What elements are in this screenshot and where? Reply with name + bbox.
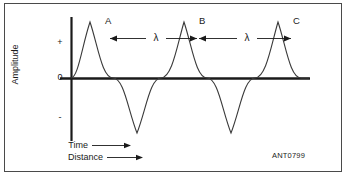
x-axis-caption-time: Time <box>28 141 88 150</box>
x-axis-caption-distance: Distance <box>28 153 103 162</box>
wavelength-arrowhead-left-1 <box>110 36 117 42</box>
y-tick-negative: - <box>54 113 66 122</box>
wavelength-symbol-1: λ <box>146 33 166 43</box>
wavelength-arrowhead-right-2 <box>284 36 291 42</box>
y-tick-positive: + <box>54 38 66 47</box>
y-tick-zero: 0 <box>54 73 66 82</box>
time-arrowhead-icon <box>124 143 131 148</box>
y-axis-title: Amplitude <box>11 29 20 101</box>
wavelength-symbol-2: λ <box>237 33 257 43</box>
wavelength-arrowhead-left-2 <box>199 36 206 42</box>
peak-label-c: C <box>293 16 300 26</box>
figure-code-label: ANT0799 <box>272 152 305 160</box>
wavelength-arrowhead-right-1 <box>190 36 197 42</box>
distance-arrowhead-icon <box>136 155 143 160</box>
peak-label-b: B <box>199 16 205 26</box>
peak-label-a: A <box>105 16 111 26</box>
wave-diagram-figure: + 0 - Amplitude A B C λ λ Time Distance … <box>0 0 348 178</box>
